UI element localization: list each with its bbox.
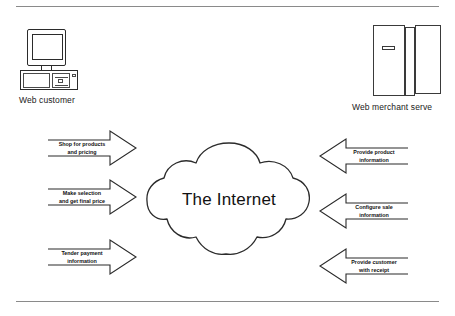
cloud-icon: The Internet xyxy=(146,137,312,262)
flow-arrow-shop-for-products: Shop for products and pricing xyxy=(46,129,138,167)
customer-node-label: Web customer xyxy=(19,95,75,105)
internet-node-label: The Internet xyxy=(146,137,312,262)
top-divider-rule xyxy=(16,6,439,7)
flow-arrow-label: Provide customer with receipt xyxy=(338,247,410,285)
case-left-panel xyxy=(23,73,50,88)
drive-slot-top xyxy=(55,77,68,78)
diagram-canvas: Web customer Web merchant serve The Inte… xyxy=(0,0,455,316)
flow-arrow-label: Make selection and get final price xyxy=(46,178,118,216)
flow-arrow-label: Configure sale information xyxy=(338,192,410,230)
drive-eject-button xyxy=(58,79,63,83)
power-led-icon xyxy=(72,74,76,77)
drive-slot-bottom xyxy=(55,85,68,86)
flow-arrow-tender-payment: Tender payment information xyxy=(46,238,138,276)
case-drive-bay xyxy=(52,73,70,88)
server-drive-slot xyxy=(382,46,395,50)
flow-arrow-label: Shop for products and pricing xyxy=(46,129,118,167)
monitor-bezel xyxy=(27,29,66,66)
server-tower-left-panel xyxy=(373,25,405,96)
flow-arrow-configure-sale-information: Configure sale information xyxy=(318,192,410,230)
merchant-node-label: Web merchant serve xyxy=(352,102,432,112)
flow-arrow-make-selection: Make selection and get final price xyxy=(46,178,138,216)
server-tower-icon xyxy=(373,25,441,96)
flow-arrow-label: Tender payment information xyxy=(46,238,118,276)
flow-arrow-label: Provide product information xyxy=(338,137,410,175)
computer-case xyxy=(20,70,78,90)
flow-arrow-provide-customer-with-receipt: Provide customer with receipt xyxy=(318,247,410,285)
flow-arrow-provide-product-information: Provide product information xyxy=(318,137,410,175)
server-tower-right-panel xyxy=(415,25,441,94)
monitor-screen xyxy=(32,34,63,60)
bottom-divider-rule xyxy=(16,301,439,302)
server-center-divider xyxy=(405,27,415,96)
desktop-computer-icon xyxy=(20,29,78,91)
